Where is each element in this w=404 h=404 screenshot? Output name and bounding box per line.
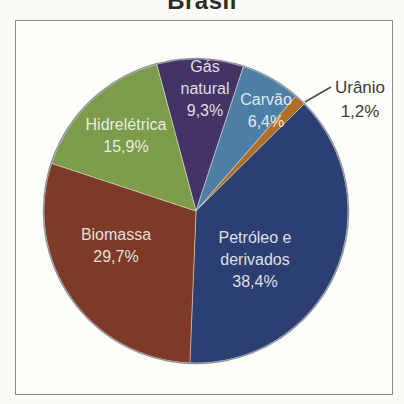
pie-svg: Gásnatural9,3%Carvão6,4%Urânio1,2%Petról… bbox=[0, 0, 404, 404]
slice-label-hidreletrica-line1: Hidrelétrica bbox=[86, 116, 167, 133]
page: Brasil Gásnatural9,3%Carvão6,4%Urânio1,2… bbox=[0, 0, 404, 404]
slice-label-gas-natural-line3: 9,3% bbox=[187, 102, 223, 119]
slice-label-uranio-line1: Urânio bbox=[335, 78, 385, 97]
slice-label-carvao-line2: 6,4% bbox=[248, 113, 284, 130]
slice-label-biomassa-line2: 29,7% bbox=[93, 248, 138, 265]
leader-line-uranio bbox=[305, 87, 331, 102]
slice-label-hidreletrica-line2: 15,9% bbox=[103, 138, 148, 155]
slice-label-petroleo-e-derivados-line2: derivados bbox=[220, 251, 289, 268]
slice-label-petroleo-e-derivados-line3: 38,4% bbox=[232, 273, 277, 290]
slice-label-uranio-line2: 1,2% bbox=[341, 102, 380, 121]
slice-label-carvao-line1: Carvão bbox=[240, 91, 292, 108]
slice-label-gas-natural-line1: Gás bbox=[190, 58, 219, 75]
slice-label-gas-natural-line2: natural bbox=[181, 80, 230, 97]
slice-label-petroleo-e-derivados-line1: Petróleo e bbox=[219, 229, 292, 246]
slice-label-biomassa-line1: Biomassa bbox=[81, 226, 151, 243]
